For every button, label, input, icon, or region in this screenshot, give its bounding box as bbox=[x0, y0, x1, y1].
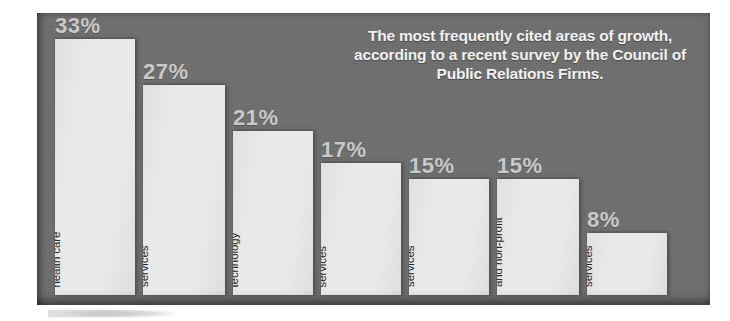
bar-value-label: 8% bbox=[587, 208, 620, 232]
bar-rect[interactable]: government and non-profit bbox=[497, 179, 579, 295]
bar-group[interactable]: 17% industrial products and services bbox=[321, 163, 401, 295]
bar-category-label: professional services bbox=[409, 226, 416, 287]
bar-group[interactable]: 15% professional services bbox=[409, 179, 489, 295]
bar-category-label: financial products and services bbox=[587, 244, 594, 287]
bar-rect[interactable]: professional services bbox=[409, 179, 489, 295]
bar-group[interactable]: 33% health care bbox=[55, 39, 135, 295]
page-smudge bbox=[48, 308, 178, 319]
bar-category-label: industrial products and services bbox=[321, 222, 328, 287]
bar-rect[interactable]: financial products and services bbox=[587, 233, 667, 295]
bar-group[interactable]: 21% technology bbox=[233, 131, 313, 295]
bar-value-label: 17% bbox=[321, 138, 367, 162]
bar-value-label: 21% bbox=[233, 106, 279, 130]
bar-category-label: government and non-profit bbox=[497, 217, 504, 287]
bar-category-label: health care bbox=[55, 231, 62, 287]
bar-rect[interactable]: industrial products and services bbox=[321, 163, 401, 295]
bar-category-label: technology bbox=[233, 232, 240, 287]
chart-panel: The most frequently cited areas of growt… bbox=[37, 13, 710, 305]
bar-value-label: 33% bbox=[55, 14, 101, 38]
bar-group[interactable]: 8% financial products and services bbox=[587, 233, 667, 295]
bar-group[interactable]: 27% consumer products and services bbox=[143, 85, 225, 295]
bar-value-label: 27% bbox=[143, 60, 189, 84]
bar-rect[interactable]: technology bbox=[233, 131, 313, 295]
plot-area: 33% health care 27% consumer products an… bbox=[37, 13, 710, 305]
bar-group[interactable]: 15% government and non-profit bbox=[497, 179, 579, 295]
bar-value-label: 15% bbox=[497, 154, 543, 178]
bar-category-label: consumer products and services bbox=[143, 169, 150, 287]
bar-rect[interactable]: consumer products and services bbox=[143, 85, 225, 295]
bar-value-label: 15% bbox=[409, 154, 455, 178]
bar-rect[interactable]: health care bbox=[55, 39, 135, 295]
